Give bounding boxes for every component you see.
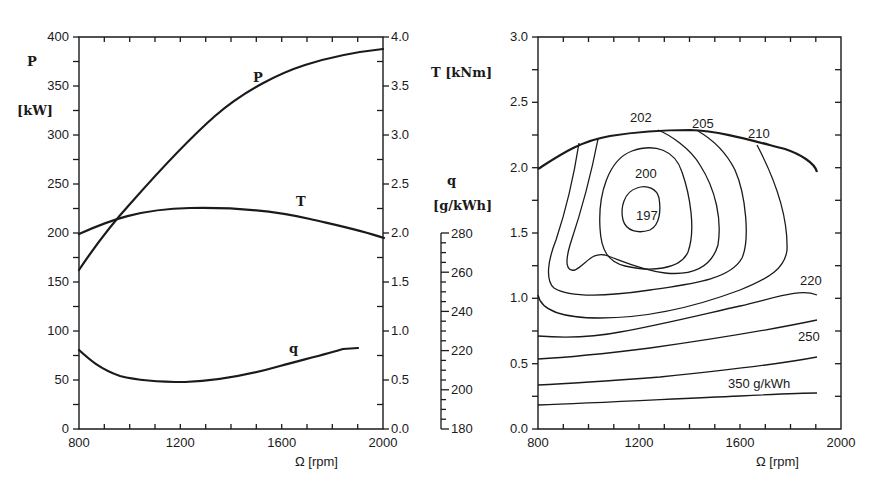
t-tick-label: 0.5 — [391, 372, 409, 387]
p-tick-label: 200 — [47, 225, 69, 240]
t-tick-label: 4.0 — [391, 29, 409, 44]
p-tick-label: 350 — [47, 78, 69, 93]
p-axis-ticks — [73, 37, 79, 429]
right-plot: 800 1200 1600 2000 0.0 0.5 1.0 1.5 — [510, 29, 856, 469]
x-tick-label: 1600 — [267, 435, 296, 450]
left-x-ticks — [104, 37, 357, 429]
t-tick-label: 3.0 — [510, 29, 528, 44]
q-axis-tick-labels: 180 200 220 240 260 280 — [451, 226, 473, 436]
p-axis-symbol: P — [27, 54, 37, 69]
p-axis-tick-labels: 0 50 100 150 200 250 300 350 400 — [47, 29, 69, 436]
q-axis-unit: [g/kWh] — [433, 198, 492, 213]
p-tick-label: 300 — [47, 127, 69, 142]
t-tick-label: 2.5 — [391, 176, 409, 191]
x-tick-label: 1200 — [166, 435, 195, 450]
fuel-consumption-curve-q — [79, 348, 358, 382]
t-tick-label: 0.0 — [391, 421, 409, 436]
contour-label-202: 202 — [630, 110, 652, 125]
right-x-tick-labels: 800 1200 1600 2000 — [527, 435, 855, 450]
t-tick-label: 1.5 — [391, 274, 409, 289]
p-tick-label: 150 — [47, 274, 69, 289]
left-x-axis-title: Ω [rpm] — [295, 454, 338, 469]
right-plot-frame — [538, 37, 841, 429]
contour-label-210: 210 — [748, 126, 770, 141]
right-x-axis-title: Ω [rpm] — [756, 454, 799, 469]
p-tick-label: 0 — [62, 421, 69, 436]
t-tick-label: 1.5 — [510, 225, 528, 240]
q-tick-label: 260 — [451, 265, 473, 280]
t-tick-label: 1.0 — [391, 323, 409, 338]
t-tick-label: 3.5 — [391, 78, 409, 93]
t-axis-title: T [kNm] — [431, 65, 492, 80]
x-tick-label: 800 — [68, 435, 90, 450]
t-tick-label: 2.0 — [510, 160, 528, 175]
max-torque-boundary — [538, 130, 817, 172]
power-curve-p — [79, 49, 383, 270]
t-tick-label: 1.0 — [510, 290, 528, 305]
contour-label-205: 205 — [692, 116, 714, 131]
t-tick-label: 2.5 — [510, 94, 528, 109]
curve-label-p: P — [253, 70, 263, 85]
x-tick-label: 2000 — [369, 435, 398, 450]
p-tick-label: 400 — [47, 29, 69, 44]
p-tick-label: 50 — [55, 372, 69, 387]
contour-label-350: 350 g/kWh — [728, 376, 790, 391]
curve-label-q: q — [289, 341, 298, 356]
t-tick-label: 2.0 — [391, 225, 409, 240]
q-tick-label: 280 — [451, 226, 473, 241]
contour-220 — [538, 293, 817, 337]
x-tick-label: 800 — [527, 435, 549, 450]
contour-label-197: 197 — [636, 208, 658, 223]
x-tick-label: 1200 — [625, 435, 654, 450]
q-tick-label: 200 — [451, 382, 473, 397]
q-tick-label: 220 — [451, 343, 473, 358]
right-x-ticks — [563, 37, 816, 429]
contour-label-250: 250 — [798, 329, 820, 344]
q-axis-symbol: q — [447, 173, 456, 188]
t-tick-label: 3.0 — [391, 127, 409, 142]
x-tick-label: 2000 — [827, 435, 856, 450]
torque-curve-t — [79, 208, 384, 238]
left-plot-frame — [79, 37, 383, 429]
contour-label-200: 200 — [635, 166, 657, 181]
p-tick-label: 100 — [47, 323, 69, 338]
left-plot: 800 1200 1600 2000 0 50 100 150 200 250 … — [17, 29, 492, 469]
p-axis-unit: [kW] — [17, 103, 53, 118]
right-y-tick-labels: 0.0 0.5 1.0 1.5 2.0 2.5 3.0 — [510, 29, 528, 436]
q-tick-label: 240 — [451, 304, 473, 319]
x-tick-label: 1600 — [726, 435, 755, 450]
contour-210 — [538, 145, 787, 318]
contour-350 — [538, 393, 817, 405]
p-tick-label: 250 — [47, 176, 69, 191]
contour-label-220: 220 — [800, 273, 822, 288]
engine-performance-figure: 800 1200 1600 2000 0 50 100 150 200 250 … — [0, 0, 880, 492]
right-y-ticks — [532, 37, 841, 429]
t-tick-label: 0.0 — [510, 421, 528, 436]
q-axis — [441, 233, 449, 429]
curve-label-t: T — [296, 194, 306, 209]
contour-202 — [567, 130, 719, 273]
q-tick-label: 180 — [451, 421, 473, 436]
t-tick-label: 0.5 — [510, 356, 528, 371]
t-axis-tick-labels: 0.0 0.5 1.0 1.5 2.0 2.5 3.0 3.5 4.0 — [391, 29, 409, 436]
contour-250 — [538, 320, 817, 359]
left-x-tick-labels: 800 1200 1600 2000 — [68, 435, 397, 450]
